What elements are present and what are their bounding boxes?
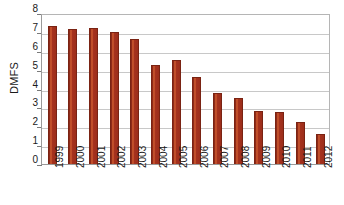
bar-slot xyxy=(166,15,187,164)
x-tick-label: 2011 xyxy=(303,146,313,168)
x-tick-label: 2006 xyxy=(200,146,210,168)
x-tick-label: 2001 xyxy=(97,146,107,168)
x-tick-label: 1999 xyxy=(55,146,65,168)
x-tick-label: 2010 xyxy=(282,146,292,168)
bar-slot xyxy=(248,15,269,164)
bar-slot xyxy=(269,15,290,164)
x-tick-label: 2007 xyxy=(220,146,230,168)
x-tick-label: 2009 xyxy=(262,146,272,168)
x-tick-label: 2004 xyxy=(159,146,169,168)
bar xyxy=(48,26,57,164)
x-axis-tick-labels: 1999200020012002200320042005200620072008… xyxy=(41,166,330,205)
bar-slot xyxy=(290,15,311,164)
x-tick-label: 2008 xyxy=(241,146,251,168)
y-tick-label: 8 xyxy=(32,4,38,14)
bar-slot xyxy=(145,15,166,164)
x-tick-label: 2005 xyxy=(179,146,189,168)
bar xyxy=(89,28,98,164)
y-axis-title: DMFS xyxy=(8,48,20,108)
x-tick-label: 2000 xyxy=(76,146,86,168)
x-tick-label: 2012 xyxy=(324,146,334,168)
bar-slot xyxy=(63,15,84,164)
bar-slot xyxy=(207,15,228,164)
bar-slot xyxy=(228,15,249,164)
bar-slot xyxy=(125,15,146,164)
bar-series xyxy=(42,15,329,164)
x-tick-label: 2003 xyxy=(138,146,148,168)
bar-slot xyxy=(310,15,331,164)
bar-slot xyxy=(83,15,104,164)
bar-slot xyxy=(42,15,63,164)
x-tick-label: 2002 xyxy=(117,146,127,168)
bar-slot xyxy=(104,15,125,164)
bar xyxy=(110,32,119,164)
bar-chart: DMFS 876543210 1999200020012002200320042… xyxy=(0,0,344,205)
plot-area xyxy=(41,14,330,165)
bar xyxy=(68,29,77,164)
bar-slot xyxy=(187,15,208,164)
